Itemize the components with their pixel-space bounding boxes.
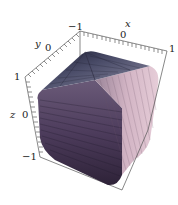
rounded-cube-surface — [38, 51, 159, 185]
z-tick-0: 0 — [22, 109, 28, 120]
x-tick-0: 0 — [120, 29, 126, 40]
x-tick-neg1: −1 — [68, 21, 83, 32]
z-tick-neg1: −1 — [22, 151, 37, 162]
surface-plot-3d: x −1 0 1 y 0 1 1 z 0 −1 — [0, 0, 178, 205]
z-axis-label: z — [9, 109, 16, 120]
y-axis-label: y — [34, 38, 41, 49]
x-tick-1: 1 — [169, 43, 175, 54]
y-tick-0: 0 — [45, 42, 51, 53]
x-axis-label: x — [125, 18, 131, 29]
